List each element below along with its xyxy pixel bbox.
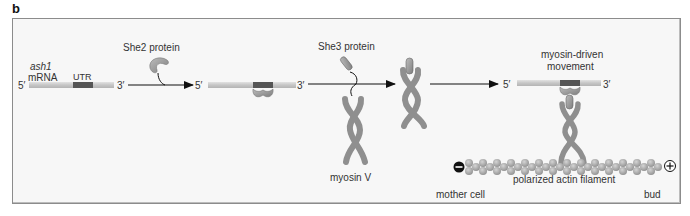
three-prime-label-3: 3′ (603, 79, 611, 90)
myosin-walking-icon (561, 104, 584, 163)
bud-label: bud (644, 189, 661, 200)
actin-filament-label: polarized actin filament (513, 174, 615, 185)
myosin-v-icon (345, 99, 365, 162)
mrna-strand-2-icon (208, 82, 296, 88)
ash1-mrna-group: ash1 mRNA UTR 5′ 3′ (18, 61, 125, 91)
mrna-she2-complex: 5′ 3′ (195, 80, 305, 97)
three-prime-label-2: 3′ (297, 80, 305, 91)
minus-end-icon (454, 162, 465, 173)
mrna-label: mRNA (28, 72, 58, 83)
she3-myosin-complex (403, 58, 424, 126)
movement-title-line1: myosin-driven (541, 49, 603, 60)
ash1-gene-label: ash1 (30, 61, 52, 72)
myosin-driven-movement-group: myosin-driven movement 5′ 3′ (503, 49, 611, 163)
she3-protein-label: She3 protein (318, 41, 375, 52)
utr-region-2-icon (253, 82, 273, 88)
actin-filament-icon (465, 159, 662, 175)
she2-bound-icon (253, 89, 273, 97)
step-arrow-1: She2 protein (123, 42, 193, 85)
utr-region-icon (73, 82, 93, 88)
five-prime-label-2: 5′ (195, 80, 203, 91)
mother-cell-label: mother cell (436, 189, 485, 200)
she2-protein-label: She2 protein (123, 42, 180, 53)
utr-region-3-icon (560, 80, 580, 86)
she2-protein-icon (150, 58, 169, 73)
myosin-v-label: myosin V (330, 172, 371, 183)
movement-title-line2: movement (547, 61, 594, 72)
five-prime-label-3: 5′ (503, 79, 511, 90)
mrna-strand-icon (29, 82, 114, 88)
five-prime-label-1: 5′ (18, 80, 26, 91)
mrna-strand-3-icon (517, 80, 601, 86)
utr-label: UTR (73, 72, 92, 82)
she3-protein-icon (339, 56, 353, 72)
three-prime-label-1: 3′ (117, 80, 125, 91)
step-arrow-2: She3 protein myosin V (308, 41, 395, 183)
plus-end-icon (665, 161, 676, 172)
diagram-canvas: ash1 mRNA UTR 5′ 3′ She2 protein 5′ 3′ S… (0, 0, 690, 216)
